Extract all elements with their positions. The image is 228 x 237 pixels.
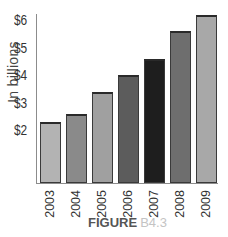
bar-chart: In billions $6 $5 $4 $3 $2 2003200420052… bbox=[0, 0, 228, 237]
y-tick-6: $6 bbox=[14, 12, 33, 28]
figure-label: FIGURE bbox=[88, 215, 137, 230]
y-axis-line bbox=[36, 14, 37, 184]
x-axis-line bbox=[36, 183, 218, 184]
y-tick-5: $5 bbox=[14, 40, 33, 56]
x-tick-2009: 2009 bbox=[199, 190, 213, 220]
bar-2008 bbox=[170, 31, 191, 183]
bar-2009 bbox=[196, 15, 217, 184]
figure-caption: FIGUREB4.3 bbox=[88, 215, 167, 230]
bar-2007 bbox=[144, 59, 165, 184]
bar-2004 bbox=[66, 114, 87, 184]
y-tick-2: $2 bbox=[14, 122, 33, 138]
bar-2006 bbox=[118, 75, 139, 183]
bar-2005 bbox=[92, 92, 113, 184]
y-tick-4: $4 bbox=[14, 67, 33, 83]
x-tick-2008: 2008 bbox=[173, 190, 187, 220]
figure-number: B4.3 bbox=[140, 215, 167, 230]
x-tick-2003: 2003 bbox=[43, 190, 57, 220]
y-tick-3: $3 bbox=[14, 95, 33, 111]
x-tick-2004: 2004 bbox=[69, 190, 83, 220]
bar-2003 bbox=[40, 122, 61, 183]
